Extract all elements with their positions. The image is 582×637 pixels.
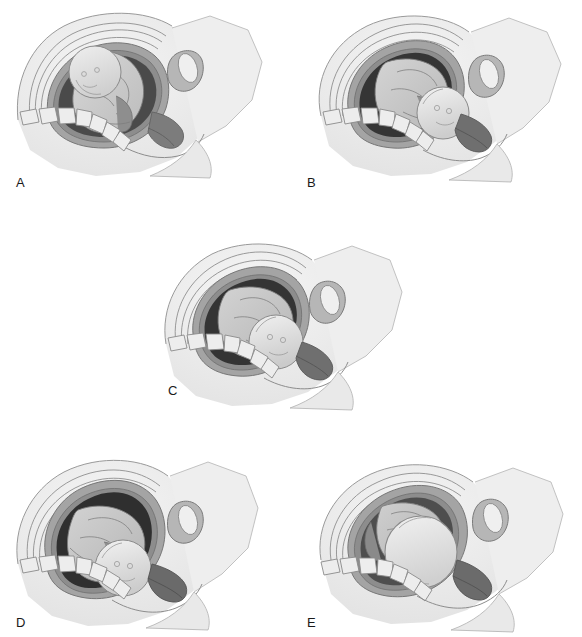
panel-d-illustration bbox=[0, 448, 291, 637]
panel-label-d: D bbox=[16, 616, 26, 629]
panel-label-a: A bbox=[16, 176, 25, 189]
panel-d: D bbox=[0, 448, 291, 637]
panel-e-illustration bbox=[291, 448, 582, 637]
fetal-head bbox=[69, 46, 121, 98]
panel-c: C bbox=[146, 232, 437, 440]
panel-b-illustration bbox=[291, 0, 582, 208]
panel-a-illustration bbox=[0, 0, 291, 208]
panel-label-e: E bbox=[307, 616, 316, 629]
panel-b: B bbox=[291, 0, 582, 208]
panel-c-illustration bbox=[146, 232, 437, 440]
panel-label-b: B bbox=[307, 176, 316, 189]
panel-label-c: C bbox=[168, 384, 178, 397]
panel-e: E bbox=[291, 448, 582, 637]
panel-a: A bbox=[0, 0, 291, 208]
